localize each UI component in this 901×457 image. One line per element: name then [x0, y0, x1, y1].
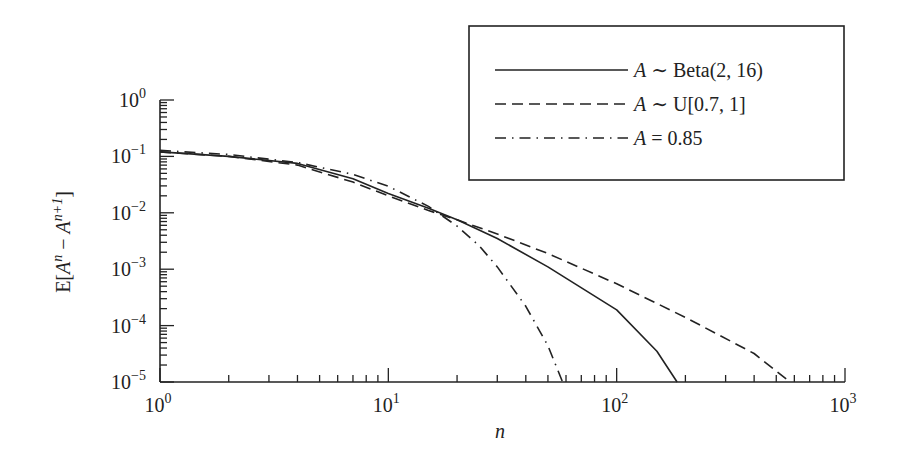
y-axis-title: E[An − An+1]: [50, 191, 74, 293]
y-tick-label: 10−1: [111, 142, 146, 167]
x-tick-label: 100: [145, 391, 172, 416]
svg-text:A = 0.85: A = 0.85: [632, 127, 703, 149]
y-tick-label: 10−4: [111, 312, 146, 337]
x-tick-label: 103: [830, 391, 857, 416]
y-tick-label: 10−5: [111, 368, 146, 393]
series-line-dashed: [160, 152, 790, 382]
legend: A ∼ Beta(2, 16) A ∼ U[0.7, 1] A = 0.85: [469, 26, 844, 180]
y-tick-label: 100: [119, 86, 146, 111]
plot-series: [160, 150, 790, 382]
svg-text:A ∼ U[0.7, 1]: A ∼ U[0.7, 1]: [632, 93, 746, 115]
y-tick-label: 10−3: [111, 255, 146, 280]
y-tick-label: 10−2: [111, 199, 146, 224]
x-tick-label: 102: [601, 391, 628, 416]
series-line-solid: [160, 152, 677, 382]
svg-text:A ∼ Beta(2, 16): A ∼ Beta(2, 16): [632, 59, 763, 82]
x-tick-label: 101: [373, 391, 400, 416]
chart: 10010110210310010−110−210−310−410−5 n E[…: [0, 0, 901, 457]
x-axis-title: n: [495, 420, 505, 442]
